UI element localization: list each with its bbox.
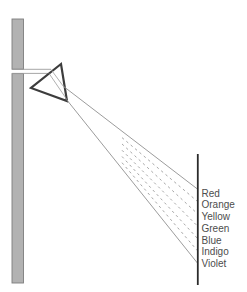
prism-dispersion-diagram: RedOrangeYellowGreenBlueIndigoViolet — [0, 0, 247, 292]
ray-yellow — [122, 144, 197, 214]
ray-blue — [122, 157, 197, 239]
spectrum-label-yellow: Yellow — [202, 211, 231, 222]
spectrum-label-indigo: Indigo — [202, 246, 230, 257]
diagram-canvas: RedOrangeYellowGreenBlueIndigoViolet — [0, 0, 247, 292]
ray-violet — [67, 100, 198, 264]
ray-indigo — [122, 163, 197, 251]
spectrum-label-blue: Blue — [202, 235, 222, 246]
spectrum-rays-group — [63, 86, 197, 263]
spectrum-label-violet: Violet — [202, 258, 227, 269]
spectrum-label-green: Green — [202, 223, 230, 234]
ray-orange — [122, 138, 197, 202]
wall-group — [12, 19, 24, 283]
wall-upper-segment — [12, 19, 24, 69]
ray-red — [63, 86, 197, 189]
spectrum-label-red: Red — [202, 188, 220, 199]
spectrum-label-orange: Orange — [202, 199, 236, 210]
spectrum-labels-group: RedOrangeYellowGreenBlueIndigoViolet — [202, 188, 236, 270]
light-beam-group — [12, 69, 51, 73]
ray-green — [122, 150, 197, 226]
wall-lower-segment — [12, 74, 24, 283]
